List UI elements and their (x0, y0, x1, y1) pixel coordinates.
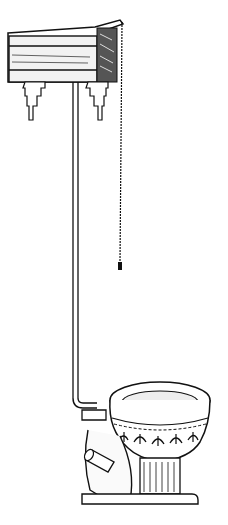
toilet-illustration (0, 0, 228, 525)
pull-chain (118, 22, 122, 270)
cistern-tank (8, 20, 123, 82)
flush-pipe (73, 82, 97, 408)
chain-handle (118, 262, 122, 270)
pipe-coupling (82, 410, 106, 420)
wall-brackets (23, 82, 108, 120)
toilet-bowl (82, 382, 210, 504)
